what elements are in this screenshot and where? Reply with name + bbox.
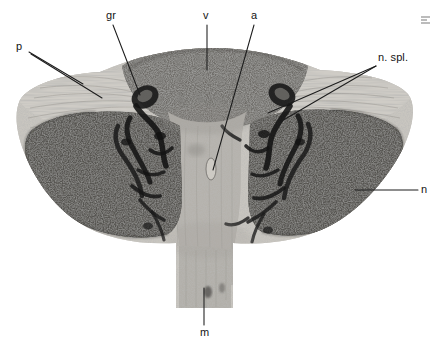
label-n-spl: n. spl. — [378, 52, 408, 63]
scan-artifact-mark — [421, 16, 430, 27]
label-p: p — [16, 41, 22, 52]
specimen-plate — [0, 0, 442, 349]
histology-figure: p gr v a n. spl. n m — [0, 0, 442, 349]
central-vessel-a — [206, 158, 216, 180]
label-a: a — [251, 10, 257, 21]
label-m: m — [200, 327, 209, 338]
label-n: n — [421, 184, 427, 195]
label-gr: gr — [106, 10, 116, 21]
label-v: v — [203, 10, 209, 21]
